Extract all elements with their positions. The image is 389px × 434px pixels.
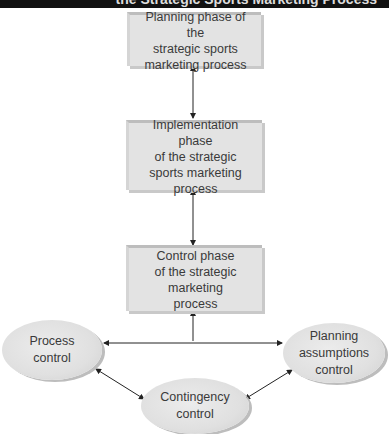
planning-assumptions-control-ellipse: Planning assumptions control	[283, 323, 385, 383]
process-control-ellipse: Process control	[2, 320, 102, 380]
implementation-phase-label: Implementation phase of the strategic sp…	[135, 117, 256, 197]
control-phase-box: Control phase of the strategic marketing…	[126, 245, 262, 311]
contingency-control-ellipse: Contingency control	[141, 378, 249, 434]
planning-phase-label: Planning phase of the strategic sports m…	[136, 9, 255, 73]
planning-assumptions-control-label: Planning assumptions control	[299, 328, 369, 379]
planning-phase-box: Planning phase of the strategic sports m…	[127, 12, 261, 66]
process-control-label: Process control	[29, 333, 74, 367]
contingency-control-label: Contingency control	[160, 389, 230, 423]
control-phase-label: Control phase of the strategic marketing…	[155, 248, 237, 312]
implementation-phase-box: Implementation phase of the strategic sp…	[126, 120, 262, 190]
